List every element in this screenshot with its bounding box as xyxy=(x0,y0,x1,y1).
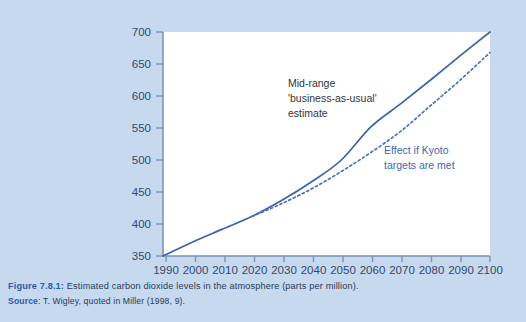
chart-canvas: 700 650 600 550 500 450 400 350 1990 xyxy=(0,0,526,322)
figure-caption-block: Figure 7.8.1: Estimated carbon dioxide l… xyxy=(8,279,508,308)
annotation-midrange-line-1: Mid-range xyxy=(288,77,335,89)
annotation-midrange-line-3: estimate xyxy=(288,107,328,119)
y-tick-label: 500 xyxy=(132,154,151,166)
figure-source-line: Source: T. Wigley, quoted in Miller (199… xyxy=(8,294,508,308)
y-tick-label: 550 xyxy=(132,122,151,134)
y-axis-tick-labels: 700 650 600 550 500 450 400 350 xyxy=(132,26,151,262)
y-tick-label: 600 xyxy=(132,90,151,102)
x-tick-label: 2080 xyxy=(419,264,445,276)
figure-caption-line: Figure 7.8.1: Estimated carbon dioxide l… xyxy=(8,279,508,294)
x-tick-label: 2040 xyxy=(301,264,327,276)
figure-container: 700 650 600 550 500 450 400 350 1990 xyxy=(0,0,526,322)
x-tick-label: 1990 xyxy=(153,264,179,276)
annotation-kyoto-line-2: targets are met xyxy=(384,159,455,171)
y-tick-label: 400 xyxy=(132,218,151,230)
y-axis-ticks xyxy=(156,32,163,256)
y-tick-label: 350 xyxy=(132,250,151,262)
x-tick-label: 2090 xyxy=(448,264,474,276)
x-tick-label: 2060 xyxy=(360,264,386,276)
x-tick-label: 2010 xyxy=(212,264,238,276)
x-tick-label: 2020 xyxy=(242,264,268,276)
figure-number-label: Figure 7.8.1: xyxy=(8,281,64,291)
y-tick-label: 450 xyxy=(132,186,151,198)
y-tick-label: 650 xyxy=(132,58,151,70)
x-axis-ticks xyxy=(166,256,490,262)
figure-caption-text: Estimated carbon dioxide levels in the a… xyxy=(67,281,359,291)
y-tick-label: 700 xyxy=(132,26,151,38)
x-axis-tick-labels: 1990 2000 2010 2020 2030 2040 2050 2060 … xyxy=(153,264,503,276)
annotation-midrange-line-2: 'business-as-usual' xyxy=(288,92,377,104)
x-tick-label: 2050 xyxy=(330,264,356,276)
source-label: Source xyxy=(8,296,38,306)
x-tick-label: 2030 xyxy=(271,264,297,276)
x-tick-label: 2070 xyxy=(389,264,415,276)
x-tick-label: 2100 xyxy=(477,264,503,276)
source-text: : T. Wigley, quoted in Miller (1998, 9). xyxy=(38,296,185,306)
x-tick-label: 2000 xyxy=(183,264,209,276)
annotation-kyoto-line-1: Effect if Kyoto xyxy=(384,144,449,156)
